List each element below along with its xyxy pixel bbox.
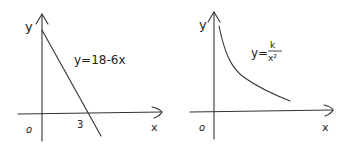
right-equation-denominator: x² — [268, 53, 277, 63]
diagram-canvas: y x o 3 y=18-6x y x o y= k x² — [0, 0, 350, 151]
right-origin-label: o — [199, 122, 205, 133]
right-inverse-square-curve — [219, 26, 290, 101]
right-x-label: x — [322, 121, 329, 134]
left-y-label: y — [25, 19, 33, 34]
left-x-label: x — [151, 121, 158, 134]
right-x-axis — [190, 110, 333, 112]
left-line-curve — [42, 30, 101, 136]
left-equation: y=18-6x — [74, 53, 126, 67]
left-origin-label: o — [26, 124, 32, 135]
right-equation-lhs: y= — [251, 46, 268, 60]
right-graph: y x o y= k x² — [190, 12, 333, 139]
left-x-axis — [18, 112, 162, 114]
left-tick-3: 3 — [77, 119, 83, 130]
right-equation-numerator: k — [270, 40, 276, 50]
right-y-label: y — [199, 17, 207, 32]
left-graph: y x o 3 y=18-6x — [18, 14, 162, 141]
